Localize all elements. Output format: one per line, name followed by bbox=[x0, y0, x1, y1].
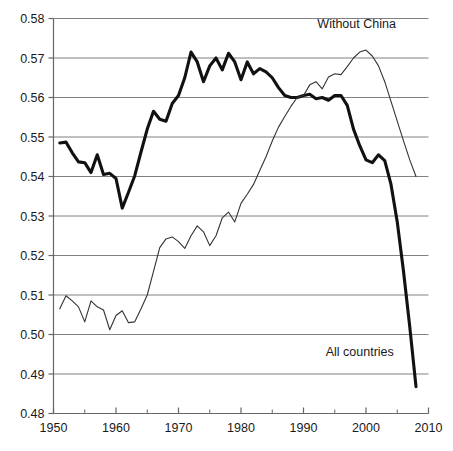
x-tick-label: 1950 bbox=[40, 421, 68, 435]
y-tick-label: 0.48 bbox=[20, 407, 44, 421]
y-tick-label: 0.53 bbox=[20, 210, 44, 224]
y-tick-label: 0.52 bbox=[20, 249, 44, 263]
x-tick-label: 2000 bbox=[352, 421, 380, 435]
x-tick-label: 1990 bbox=[290, 421, 318, 435]
series-label-without-china: Without China bbox=[317, 17, 396, 31]
y-tick-label: 0.57 bbox=[20, 52, 44, 66]
y-tick-label: 0.55 bbox=[20, 131, 44, 145]
chart-figure: 0.480.490.500.510.520.530.540.550.560.57… bbox=[0, 0, 453, 451]
y-tick-label: 0.54 bbox=[20, 170, 44, 184]
y-tick-label: 0.56 bbox=[20, 91, 44, 105]
y-tick-label: 0.51 bbox=[20, 289, 44, 303]
chart-background bbox=[0, 0, 453, 451]
y-tick-label: 0.49 bbox=[20, 368, 44, 382]
series-label-all-countries: All countries bbox=[326, 345, 394, 359]
line-chart: 0.480.490.500.510.520.530.540.550.560.57… bbox=[0, 0, 453, 451]
y-tick-label: 0.58 bbox=[20, 12, 44, 26]
x-tick-label: 1980 bbox=[227, 421, 255, 435]
x-tick-label: 1970 bbox=[165, 421, 193, 435]
x-tick-label: 1960 bbox=[102, 421, 130, 435]
x-tick-label: 2010 bbox=[415, 421, 443, 435]
y-tick-label: 0.50 bbox=[20, 328, 44, 342]
